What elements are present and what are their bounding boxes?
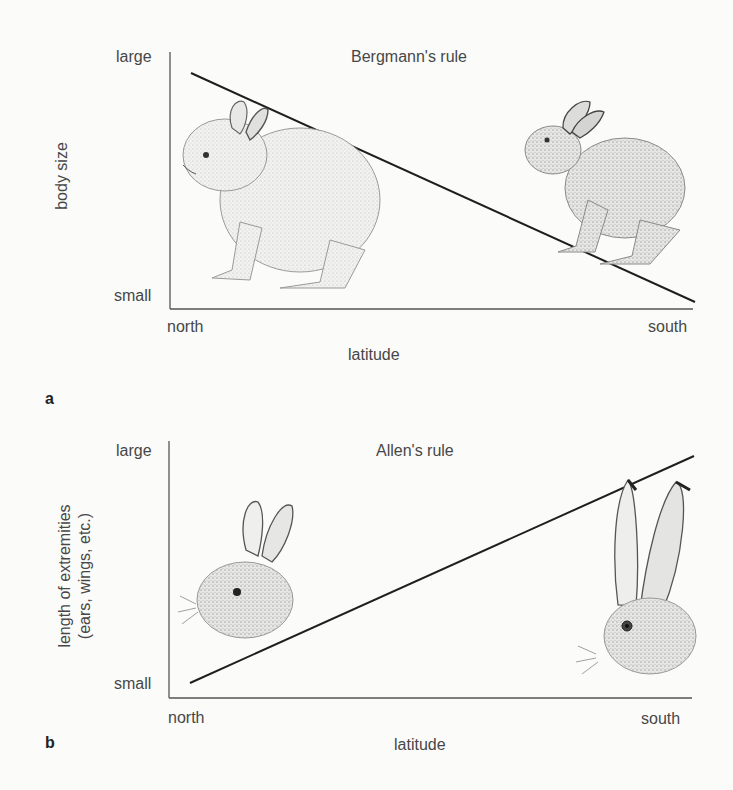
panel-b-x-left-label: north — [168, 709, 204, 727]
panel-a-x-left-label: north — [167, 318, 203, 336]
panel-b-y-high-label: large — [116, 442, 152, 460]
panel-a-x-axis-label: latitude — [348, 346, 400, 364]
panel-b-letter: b — [45, 734, 55, 752]
northern-hare-full-body-illustration — [183, 101, 380, 288]
panel-a-y-axis-label: body size — [52, 126, 72, 226]
panel-a-y-high-label: large — [116, 48, 152, 66]
panel-a-letter: a — [45, 390, 54, 408]
panel-b-x-right-label: south — [641, 710, 680, 728]
panel-a-title: Bergmann's rule — [351, 48, 467, 66]
panel-b-y-low-label: small — [114, 675, 151, 693]
panel-b-title: Allen's rule — [376, 442, 454, 460]
panel-b-x-axis-label: latitude — [394, 736, 446, 754]
panel-a-x-right-label: south — [648, 318, 687, 336]
panel-b-y-axis-label-line1: length of extremities — [55, 486, 75, 666]
panel-a-y-low-label: small — [114, 287, 151, 305]
long-eared-hare-head-illustration — [576, 480, 696, 674]
short-eared-hare-head-illustration — [178, 502, 293, 638]
southern-hare-full-body-illustration — [525, 101, 685, 264]
figure-graphics — [0, 0, 733, 790]
panel-b-y-axis-label: length of extremities (ears, wings, etc.… — [55, 486, 95, 666]
panel-b-y-axis-label-line2: (ears, wings, etc.) — [75, 486, 95, 666]
